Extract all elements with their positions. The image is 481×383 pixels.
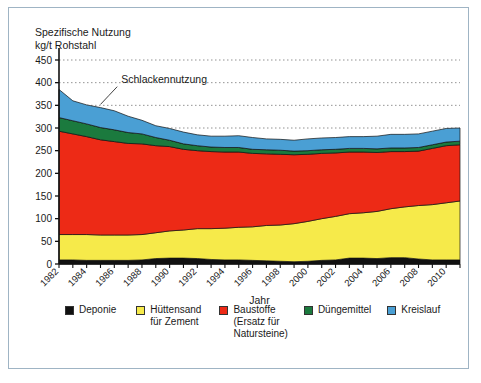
legend-item: Kreislauf xyxy=(387,304,440,316)
x-tick-label: 1988 xyxy=(121,266,144,289)
x-tick-label: 2006 xyxy=(370,266,393,289)
legend-item-label: Düngemittel xyxy=(318,304,371,316)
x-tick-label: 1990 xyxy=(148,266,171,289)
legend-item-label: Baustoffe (Ersatz für Natursteine) xyxy=(233,304,287,340)
y-tick-label: 450 xyxy=(35,55,52,66)
x-tick-label: 2004 xyxy=(342,266,365,289)
legend-item: Deponie xyxy=(65,304,116,316)
legend-item-label: Hüttensand für Zement xyxy=(150,304,201,328)
annotation-label: Schlackennutzung xyxy=(121,73,207,85)
x-tick-label: 2010 xyxy=(425,266,448,289)
legend-item: Düngemittel xyxy=(304,304,371,316)
y-tick-label: 50 xyxy=(41,236,53,247)
legend-swatch-icon xyxy=(65,306,74,315)
legend-item: Hüttensand für Zement xyxy=(136,304,201,328)
x-tick-label: 1996 xyxy=(231,266,254,289)
x-tick-label: 1982 xyxy=(38,266,61,289)
x-tick-label: 1994 xyxy=(204,266,227,289)
y-tick-label: 300 xyxy=(35,123,52,134)
legend-swatch-icon xyxy=(304,306,313,315)
legend-swatch-icon xyxy=(136,306,145,315)
legend-swatch-icon xyxy=(387,306,396,315)
x-tick-label: 1998 xyxy=(259,266,282,289)
x-tick-label: 2002 xyxy=(314,266,337,289)
y-tick-label: 200 xyxy=(35,168,52,179)
chart-legend: DeponieHüttensand für ZementBaustoffe (E… xyxy=(65,304,440,340)
y-tick-label: 400 xyxy=(35,77,52,88)
figure-panel: Spezifische Nutzung kg/t Rohstahl 050100… xyxy=(8,7,469,369)
y-tick-label: 350 xyxy=(35,100,52,111)
legend-item: Baustoffe (Ersatz für Natursteine) xyxy=(219,304,287,340)
legend-item-label: Kreislauf xyxy=(401,304,440,316)
x-tick-label: 2000 xyxy=(287,266,310,289)
y-tick-label: 100 xyxy=(35,213,52,224)
x-tick-label: 2008 xyxy=(397,266,420,289)
x-tick-label: 1986 xyxy=(93,266,116,289)
y-tick-label: 250 xyxy=(35,145,52,156)
x-tick-label: 1984 xyxy=(65,266,88,289)
y-tick-label: 150 xyxy=(35,191,52,202)
x-tick-label: 1992 xyxy=(176,266,199,289)
legend-swatch-icon xyxy=(219,306,228,315)
annotation-leader-line xyxy=(100,87,117,105)
legend-item-label: Deponie xyxy=(79,304,116,316)
